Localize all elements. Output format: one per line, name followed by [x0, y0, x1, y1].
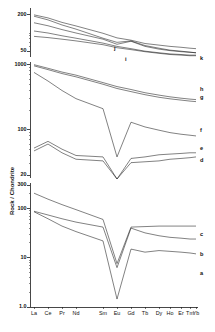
ree-chondrite-diagram: Rock / Chondrite 20050100010020300100101… — [0, 0, 215, 332]
x-tick-la: La — [31, 311, 37, 316]
curve-label-i: i — [125, 57, 127, 63]
curve-label-b: b — [200, 252, 203, 258]
axis-tick-label: 20 — [21, 172, 27, 177]
x-tick-yb: Yb — [193, 311, 200, 316]
x-tick-gd: Gd — [127, 311, 134, 316]
series-line-f — [34, 72, 196, 156]
curve-label-k: k — [200, 56, 203, 62]
x-tick-er: Er — [178, 311, 183, 316]
series-line-b — [34, 211, 196, 267]
axis-tick-label: 1000 — [15, 62, 27, 67]
curve-label-e: e — [200, 146, 203, 152]
series-line-e — [34, 141, 196, 179]
series-line-a — [34, 212, 196, 299]
x-tick-tb: Tb — [142, 311, 148, 316]
axis-tick-label: 200 — [18, 12, 27, 17]
curve-label-a: a — [200, 271, 203, 277]
x-tick-pr: Pr — [59, 311, 64, 316]
y-axis-title: Rock / Chondrite — [9, 167, 15, 215]
x-tick-nd: Nd — [73, 311, 80, 316]
curve-label-g: g — [200, 95, 203, 101]
series-line-c — [34, 193, 196, 263]
curve-label-j: j — [114, 46, 116, 52]
x-tick-eu: Eu — [114, 311, 121, 316]
series-line-h — [34, 65, 196, 100]
axis-tick-label: 1.0 — [19, 304, 27, 309]
curve-label-f: f — [200, 128, 202, 134]
axis-tick-label: 10 — [21, 255, 27, 260]
axis-tick-label: 100 — [18, 206, 27, 211]
axis-tick-label: 50 — [21, 48, 27, 53]
curve-label-h: h — [200, 87, 203, 93]
x-tick-dy: Dy — [156, 311, 163, 316]
x-tick-sm: Sm — [99, 311, 107, 316]
x-tick-ho: Ho — [167, 311, 174, 316]
axis-tick-label: 100 — [18, 127, 27, 132]
x-tick-ce: Ce — [45, 311, 52, 316]
axis-tick-label: 300 — [18, 182, 27, 187]
curve-label-d: d — [200, 158, 203, 164]
curve-label-c: c — [200, 232, 203, 238]
chart-canvas — [0, 0, 215, 332]
